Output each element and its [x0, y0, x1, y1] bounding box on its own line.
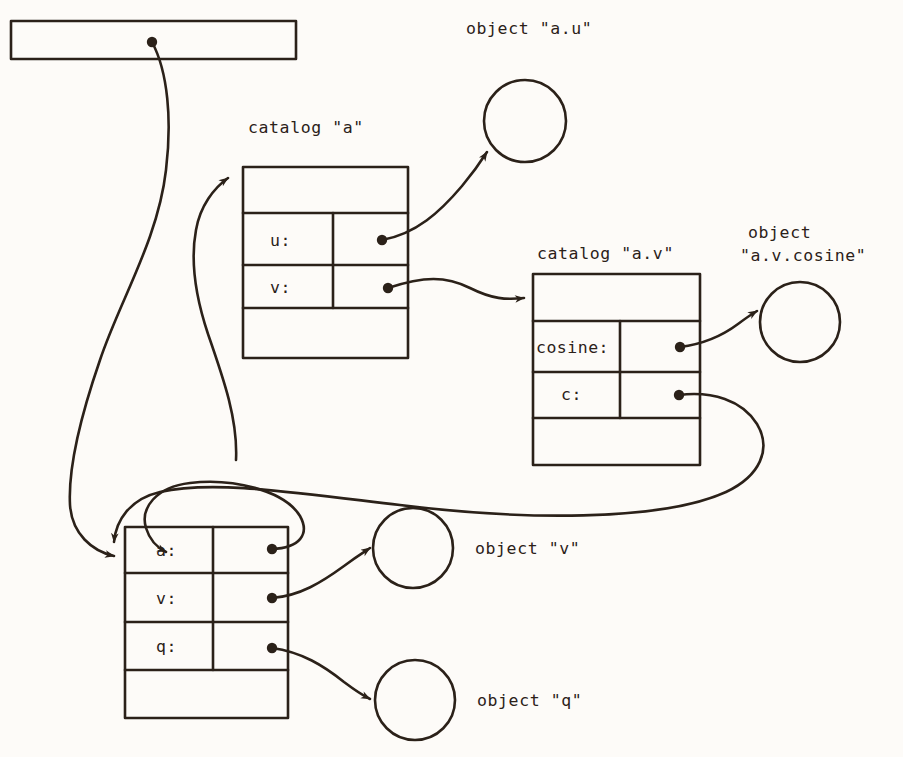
pointer-dot-cosine [675, 342, 685, 352]
pointer-working-a-to-catalog-a-riser [194, 178, 237, 460]
pointer-cosine-to-object-avcosine [680, 311, 757, 347]
catalog-a-row-u-key: u: [270, 231, 291, 250]
catalog-a-row-v-key: v: [270, 278, 291, 297]
object-a-u-circle [484, 80, 566, 162]
catalog-a-label: catalog "a" [248, 117, 364, 139]
object-a-u-label: object "a.u" [466, 18, 592, 40]
pointer-dot-catalog-a-v [383, 283, 393, 293]
diagram-canvas: object "a.u" catalog "a" catalog "a.v" o… [0, 0, 903, 757]
object-a-v-cosine-label-line2: "a.v.cosine" [740, 245, 866, 267]
pointer-dot-working-a [267, 544, 277, 554]
pointer-catalog-a-u-to-object-a-u [382, 152, 487, 240]
object-a-v-cosine-label-line1: object [748, 222, 811, 244]
catalog-a-table [243, 167, 408, 358]
object-q-circle [375, 660, 455, 740]
pointer-dot-working-v [267, 593, 277, 603]
catalog-a-v-label: catalog "a.v" [537, 243, 674, 265]
pointer-dot-catalog-a-u [377, 235, 387, 245]
object-a-v-cosine-circle [760, 282, 840, 362]
catalog-a-v-table [533, 274, 700, 465]
pointer-c-to-working-catalog [114, 394, 763, 542]
catalog-a-v-row-cosine-key: cosine: [536, 338, 609, 357]
pointer-dot-c [674, 390, 684, 400]
object-q-label: object "q" [477, 690, 582, 712]
object-v-label: object "v" [475, 538, 580, 560]
working-catalog-row-q-key: q: [156, 637, 177, 656]
diagram-vector-layer [0, 0, 903, 757]
working-catalog-row-a-key: a: [156, 541, 177, 560]
object-v-circle [373, 508, 453, 588]
catalog-a-v-row-c-key: c: [561, 385, 582, 404]
working-catalog-table [125, 527, 288, 718]
pointer-top-bar-to-working-catalog [70, 42, 169, 556]
working-catalog-row-v-key: v: [156, 589, 177, 608]
pointer-dot-working-q [267, 643, 277, 653]
pointer-dot-top-bar [147, 37, 157, 47]
